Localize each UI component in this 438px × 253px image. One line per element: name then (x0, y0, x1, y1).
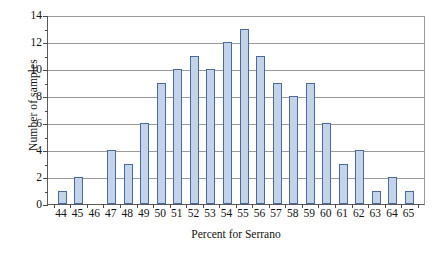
bar (306, 83, 315, 205)
bar (240, 29, 249, 205)
bar (256, 56, 265, 205)
bar (157, 83, 166, 205)
y-axis-tick-labels: 02468101214 (14, 0, 42, 253)
bar-series (48, 16, 424, 204)
bar (206, 69, 215, 204)
x-axis-title: Percent for Serrano (47, 228, 425, 240)
y-tick-label: 10 (18, 64, 42, 76)
y-tick-label: 12 (18, 37, 42, 49)
bar (322, 123, 331, 204)
bar (273, 83, 282, 205)
bar (339, 164, 348, 205)
bar (388, 177, 397, 204)
bar (107, 150, 116, 204)
bar (190, 56, 199, 205)
histogram-chart: Number of samples 02468101214 4445464748… (0, 0, 438, 253)
bar (372, 191, 381, 205)
y-tick-label: 2 (18, 172, 42, 184)
bar (140, 123, 149, 204)
x-axis-tick-labels: 4445464748495051525354555657585960616263… (47, 207, 425, 223)
y-tick-label: 6 (18, 118, 42, 130)
bar (405, 191, 414, 205)
y-tickmark-major (43, 205, 48, 206)
y-tick-label: 4 (18, 145, 42, 157)
x-tick-label: 65 (397, 207, 419, 219)
y-tick-label: 14 (18, 10, 42, 22)
plot-area (47, 16, 425, 205)
y-tick-label: 8 (18, 91, 42, 103)
bar (355, 150, 364, 204)
bar (223, 42, 232, 204)
bar (124, 164, 133, 205)
bar (289, 96, 298, 204)
bar (58, 191, 67, 205)
bar (173, 69, 182, 204)
bar (74, 177, 83, 204)
y-tick-label: 0 (18, 199, 42, 211)
